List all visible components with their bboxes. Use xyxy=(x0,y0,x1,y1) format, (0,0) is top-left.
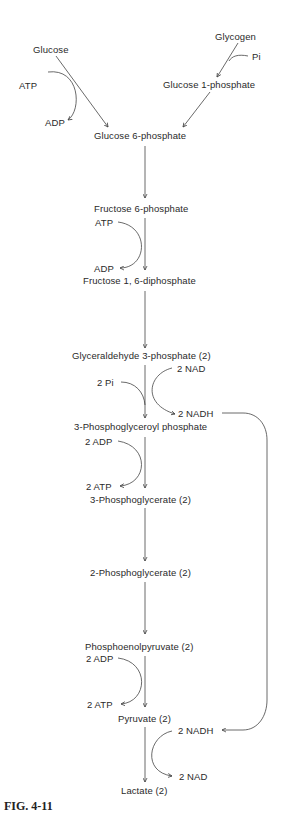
arc-adp-to-atp-1 xyxy=(118,441,142,486)
label-2atp-1: 2 ATP xyxy=(86,481,112,492)
label-2adp-2: 2 ADP xyxy=(86,653,113,664)
label-3-phosphoglyceroyl-phosphate: 3-Phosphoglyceroyl phosphate xyxy=(74,421,207,432)
label-2pi: 2 Pi xyxy=(97,377,114,388)
label-atp-2: ATP xyxy=(95,217,113,228)
label-pi: Pi xyxy=(252,51,261,62)
label-2nadh-in: 2 NADH xyxy=(178,725,213,736)
arc-atp-to-adp-1 xyxy=(48,72,76,120)
label-glucose: Glucose xyxy=(33,44,69,55)
label-2nad-out: 2 NAD xyxy=(179,771,207,782)
arrow-nadh-shuttle xyxy=(222,413,267,730)
arrow-g1p-to-g6p xyxy=(183,92,210,127)
label-glyceraldehyde-3-phosphate: Glyceraldehyde 3-phosphate (2) xyxy=(72,350,211,361)
label-pyruvate: Pyruvate (2) xyxy=(118,713,171,724)
label-2adp-1: 2 ADP xyxy=(85,436,112,447)
arc-nadh-to-nad-2 xyxy=(152,731,172,776)
pathway-arrows xyxy=(0,0,290,819)
label-2-phosphoglycerate: 2-Phosphoglycerate (2) xyxy=(90,567,191,578)
label-fructose-1-6-diphosphate: Fructose 1, 6-diphosphate xyxy=(83,275,196,286)
label-glucose-6-phosphate: Glucose 6-phosphate xyxy=(94,130,186,141)
label-adp-1: ADP xyxy=(45,117,65,128)
arc-pi-in xyxy=(229,55,248,61)
arc-atp-to-adp-2 xyxy=(118,222,142,268)
figure-caption: FIG. 4-11 xyxy=(4,799,53,814)
label-glucose-1-phosphate: Glucose 1-phosphate xyxy=(163,79,255,90)
label-phosphoenolpyruvate: Phosphoenolpyruvate (2) xyxy=(85,641,193,652)
arc-nad-to-nadh-1 xyxy=(152,368,175,414)
arc-2pi-in xyxy=(121,382,145,405)
arrow-glycogen-to-g1p xyxy=(217,43,238,77)
label-2nadh-out: 2 NADH xyxy=(178,408,213,419)
arc-adp-to-atp-2 xyxy=(118,658,142,704)
label-2atp-2: 2 ATP xyxy=(87,699,113,710)
label-lactate: Lactate (2) xyxy=(121,785,168,796)
label-fructose-6-phosphate: Fructose 6-phosphate xyxy=(94,203,188,214)
label-atp-1: ATP xyxy=(19,80,37,91)
label-glycogen: Glycogen xyxy=(215,31,256,42)
label-2nad-in: 2 NAD xyxy=(177,363,205,374)
label-3-phosphoglycerate: 3-Phosphoglycerate (2) xyxy=(90,494,191,505)
label-adp-2: ADP xyxy=(94,263,114,274)
